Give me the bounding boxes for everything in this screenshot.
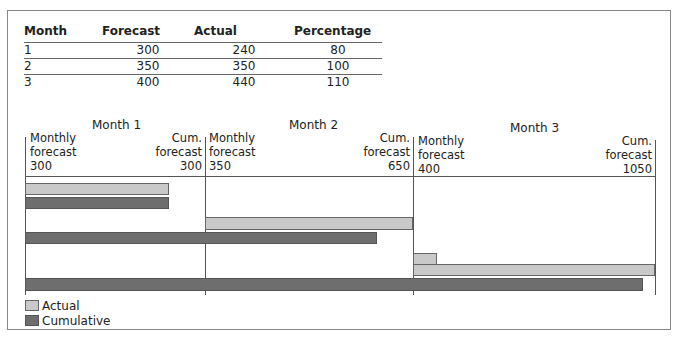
label-line: Cum. — [340, 131, 410, 145]
cell-percentage: 100 — [294, 59, 382, 75]
header-month: Month — [24, 20, 102, 43]
label-line: forecast — [418, 148, 465, 162]
header-actual: Actual — [194, 20, 294, 43]
cell-actual: 440 — [194, 75, 294, 91]
month-1-title: Month 1 — [92, 118, 141, 132]
month-3-cum-forecast-label: Cum. forecast 1050 — [580, 134, 652, 176]
cell-month: 2 — [24, 59, 102, 75]
cell-month: 3 — [24, 75, 102, 91]
axis-left-line — [25, 137, 26, 295]
month-divider-1-2 — [205, 137, 206, 295]
cell-forecast: 350 — [102, 59, 194, 75]
chart-legend: Actual Cumulative — [25, 298, 111, 328]
month-2-cum-forecast-value: 650 — [340, 159, 410, 173]
month-1-monthly-forecast-value: 300 — [30, 159, 77, 173]
cell-actual: 240 — [194, 43, 294, 59]
label-line: Cum. — [140, 131, 202, 145]
legend-item-cumulative: Cumulative — [25, 313, 111, 328]
bar-month-2-cumulative — [25, 232, 377, 244]
month-1-cum-forecast-label: Cum. forecast 300 — [140, 131, 202, 173]
header-baseline — [25, 176, 656, 177]
table-row: 2 350 350 100 — [24, 59, 382, 75]
legend-swatch-actual — [25, 300, 39, 311]
legend-label-cumulative: Cumulative — [42, 314, 111, 328]
cell-actual: 350 — [194, 59, 294, 75]
legend-swatch-cumulative — [25, 315, 39, 326]
month-1-cum-forecast-value: 300 — [140, 159, 202, 173]
month-2-monthly-forecast-value: 350 — [209, 159, 256, 173]
table-row: 1 300 240 80 — [24, 43, 382, 59]
cell-forecast: 300 — [102, 43, 194, 59]
label-line: Monthly — [30, 131, 77, 145]
bar-month-1-cumulative — [25, 197, 169, 209]
month-3-title: Month 3 — [510, 121, 559, 135]
header-percentage: Percentage — [294, 20, 382, 43]
label-line: Cum. — [580, 134, 652, 148]
month-2-title: Month 2 — [289, 118, 338, 132]
label-line: forecast — [209, 145, 256, 159]
month-3-monthly-forecast-label: Monthly forecast 400 — [418, 134, 465, 176]
cell-percentage: 110 — [294, 75, 382, 91]
forecast-table: Month Forecast Actual Percentage 1 300 2… — [24, 20, 382, 90]
month-2-cum-forecast-label: Cum. forecast 650 — [340, 131, 410, 173]
axis-right-line — [655, 140, 656, 295]
cell-month: 1 — [24, 43, 102, 59]
label-line: forecast — [580, 148, 652, 162]
label-line: Monthly — [209, 131, 256, 145]
table-header-row: Month Forecast Actual Percentage — [24, 20, 382, 43]
bar-month-2-actual — [205, 217, 413, 230]
label-line: forecast — [140, 145, 202, 159]
month-3-monthly-forecast-value: 400 — [418, 162, 465, 176]
label-line: Monthly — [418, 134, 465, 148]
cell-percentage: 80 — [294, 43, 382, 59]
legend-label-actual: Actual — [42, 299, 80, 313]
legend-item-actual: Actual — [25, 298, 111, 313]
month-3-cum-forecast-value: 1050 — [580, 162, 652, 176]
label-line: forecast — [30, 145, 77, 159]
label-line: forecast — [340, 145, 410, 159]
bar-month-1-actual — [25, 183, 169, 195]
bar-month-3-actual — [413, 264, 655, 276]
month-2-monthly-forecast-label: Monthly forecast 350 — [209, 131, 256, 173]
bar-month-3-cumulative — [25, 278, 643, 291]
header-forecast: Forecast — [102, 20, 194, 43]
cell-forecast: 400 — [102, 75, 194, 91]
month-1-monthly-forecast-label: Monthly forecast 300 — [30, 131, 77, 173]
table-row: 3 400 440 110 — [24, 75, 382, 91]
